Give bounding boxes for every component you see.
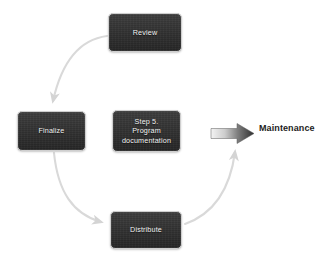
node-distribute-label: Distribute [127,225,165,234]
node-finalize-label: Finalize [36,126,68,135]
connector-finalize-to-distribute [54,153,101,222]
node-finalize[interactable]: Finalize [17,111,86,151]
maintenance-label: Maintenance [259,123,315,133]
node-distribute[interactable]: Distribute [110,211,182,249]
connector-review-to-finalize [53,36,107,101]
node-review[interactable]: Review [108,13,182,52]
diagram-canvas: Review Finalize Step 5. Program document… [0,0,327,264]
connector-distribute-to-maintenance [185,152,235,224]
node-step5-label: Step 5. Program documentation [119,117,174,145]
node-step5-program-documentation[interactable]: Step 5. Program documentation [112,110,181,152]
node-review-label: Review [130,28,160,37]
block-arrow-right-icon [211,124,254,144]
